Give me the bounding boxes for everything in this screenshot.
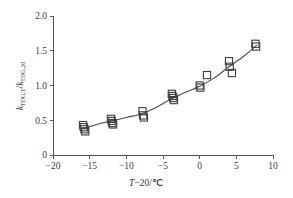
x-axis-title: T−20/℃: [129, 178, 163, 188]
data-point: [197, 84, 204, 91]
y-tick-label-0: 0: [42, 150, 47, 160]
x-tick-label-1: −15: [82, 161, 97, 171]
y-tick-label-2: 1.0: [35, 81, 47, 91]
y-tick-label-1: 0.5: [35, 116, 47, 126]
data-point: [170, 97, 177, 104]
x-tick-label-6: 10: [268, 161, 278, 171]
x-tick-label-4: 0: [197, 161, 202, 171]
x-tick-label-3: −5: [158, 161, 168, 171]
x-tick-label-5: 5: [234, 161, 239, 171]
data-point: [253, 43, 260, 50]
data-point: [110, 121, 117, 128]
y-tick-label-4: 2.0: [35, 11, 47, 21]
chart-figure: −20−15−10−50510 00.51.01.52.0 T−20/℃ kTD…: [0, 0, 293, 198]
data-point: [203, 71, 210, 78]
scatter-chart: −20−15−10−50510 00.51.01.52.0 T−20/℃ kTD…: [0, 0, 293, 198]
x-tick-label-2: −10: [119, 161, 134, 171]
y-tick-label-3: 1.5: [35, 46, 47, 56]
data-point: [228, 69, 235, 76]
data-point: [140, 114, 147, 121]
x-tick-label-0: −20: [46, 161, 61, 171]
chart-background: [0, 0, 293, 198]
data-point: [82, 128, 89, 135]
svg-text:T−20/℃: T−20/℃: [129, 178, 163, 188]
